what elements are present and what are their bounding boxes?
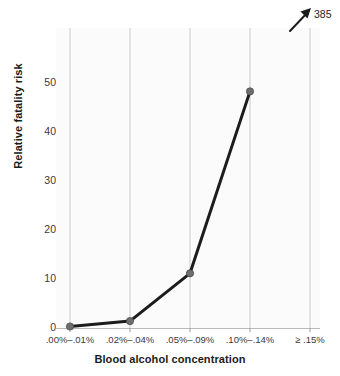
- plot-canvas: [0, 0, 340, 376]
- plot-background: [56, 28, 320, 328]
- relative-fatality-risk-chart: Relative fatality risk Blood alcohol con…: [0, 0, 340, 376]
- offscale-arrow-icon: [290, 8, 311, 31]
